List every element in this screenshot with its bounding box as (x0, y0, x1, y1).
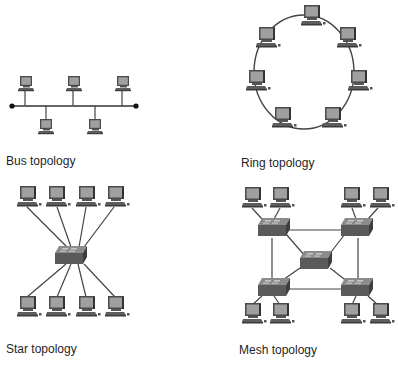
mesh-computer-icon (341, 187, 366, 208)
network-topologies-diagram (0, 0, 398, 369)
ring-computer-icon (272, 107, 297, 128)
bus-computer-icon (18, 76, 34, 91)
star-computer-icon (17, 186, 42, 207)
mesh-switch-icon (258, 278, 290, 296)
star-computer-icon (46, 296, 71, 317)
ring-computer-icon (322, 107, 347, 128)
star-topology (17, 186, 130, 317)
mesh-computer-icon (370, 303, 395, 324)
bus-computer-icon (115, 76, 131, 91)
star-computer-icon (76, 296, 101, 317)
star-switch-icon (55, 246, 87, 264)
mesh-topology-caption: Mesh topology (239, 343, 317, 357)
mesh-computer-icon (270, 187, 295, 208)
mesh-computer-icon (341, 303, 366, 324)
mesh-computer-icon (242, 187, 267, 208)
mesh-computer-icon (270, 303, 295, 324)
ring-computer-icon (256, 27, 281, 48)
star-computer-icon (76, 186, 101, 207)
bus-computer-icon (87, 119, 103, 134)
mesh-computer-icon (370, 187, 395, 208)
ring-topology-caption: Ring topology (241, 156, 314, 170)
ring-computer-icon (301, 5, 326, 26)
mesh-computer-icon (242, 303, 267, 324)
mesh-switch-icon (341, 278, 373, 296)
ring-computer-icon (246, 70, 271, 91)
bus-computer-icon (66, 76, 82, 91)
ring-topology (246, 5, 373, 129)
bus-terminator-right-icon (133, 103, 138, 108)
ring-computer-icon (348, 70, 373, 91)
bus-topology-caption: Bus topology (6, 154, 75, 168)
mesh-topology (242, 187, 395, 324)
bus-topology (9, 76, 138, 134)
bus-computer-icon (38, 119, 54, 134)
star-topology-caption: Star topology (6, 342, 77, 356)
mesh-switch-icon (300, 251, 332, 269)
star-computer-icon (105, 296, 130, 317)
bus-terminator-left-icon (9, 103, 14, 108)
star-computer-icon (17, 296, 42, 317)
star-computer-icon (105, 186, 130, 207)
ring-computer-icon (337, 27, 362, 48)
star-computer-icon (46, 186, 71, 207)
mesh-switch-icon (258, 218, 290, 236)
mesh-switch-icon (341, 218, 373, 236)
